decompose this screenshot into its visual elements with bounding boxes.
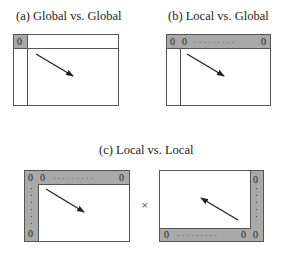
panel-c-right-arrow-icon: [201, 198, 238, 220]
panel-c-left-arrow-icon: [46, 189, 84, 212]
panel-b-arrow-icon: [187, 54, 224, 76]
panel-a-arrow-icon: [36, 54, 73, 76]
arrows-layer: [0, 0, 284, 256]
